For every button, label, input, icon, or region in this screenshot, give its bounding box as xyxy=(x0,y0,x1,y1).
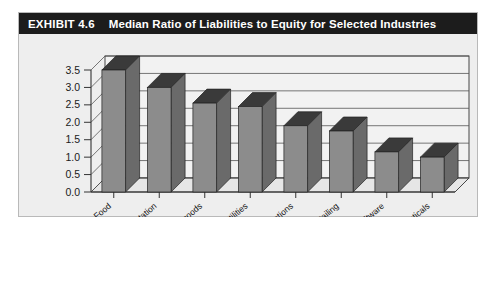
svg-text:2.5: 2.5 xyxy=(65,98,80,110)
x-tick-label: Capital goods xyxy=(157,201,204,217)
bar-column xyxy=(193,89,231,192)
chart-plot-area: 0.00.51.01.52.02.53.03.5 FoodTransportat… xyxy=(19,34,479,217)
x-tick-label: Retailing xyxy=(308,201,340,217)
svg-text:0.5: 0.5 xyxy=(65,168,80,180)
svg-text:3.0: 3.0 xyxy=(65,81,80,93)
svg-text:3.5: 3.5 xyxy=(65,64,80,76)
x-tick-label: Transportation xyxy=(110,201,159,217)
bar-chart-svg: 0.00.51.01.52.02.53.03.5 FoodTransportat… xyxy=(19,34,479,217)
svg-text:2.0: 2.0 xyxy=(65,116,80,128)
svg-text:1.5: 1.5 xyxy=(65,133,80,145)
x-tick-label: Utilities xyxy=(222,201,250,217)
bar-column xyxy=(102,56,140,192)
bar-column xyxy=(147,73,185,192)
bar-column xyxy=(284,112,322,192)
y-axis-tick-labels: 0.00.51.01.52.02.53.03.5 xyxy=(65,64,80,198)
exhibit-number-label: EXHIBIT 4.6 xyxy=(28,18,95,30)
page-title: Median Ratio of Liabilities to Equity fo… xyxy=(109,18,437,30)
x-tick-label: Food xyxy=(92,201,114,217)
exhibit-card: EXHIBIT 4.6 Median Ratio of Liabilities … xyxy=(18,12,478,217)
exhibit-title-bar: EXHIBIT 4.6 Median Ratio of Liabilities … xyxy=(19,13,477,34)
x-tick-label: Software xyxy=(354,201,387,217)
bar-column xyxy=(329,117,367,192)
bar-column xyxy=(375,138,413,192)
bar-column xyxy=(238,93,276,192)
svg-text:1.0: 1.0 xyxy=(65,151,80,163)
svg-text:0.0: 0.0 xyxy=(65,186,80,198)
x-axis-tick-labels: FoodTransportationCapital goodsUtilities… xyxy=(92,201,432,217)
